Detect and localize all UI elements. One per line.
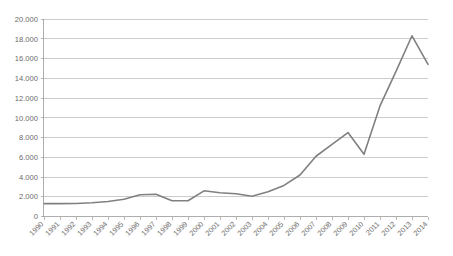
- y-axis-tick-label: 16.000: [15, 54, 38, 63]
- y-axis-tick-label: 4.000: [19, 173, 38, 182]
- y-axis-tick-label: 10.000: [15, 114, 38, 123]
- line-chart-figure: 02.0004.0006.0008.00010.00012.00014.0001…: [0, 0, 453, 256]
- y-axis-tick-label: 12.000: [15, 94, 38, 103]
- y-axis-tick-label: 6.000: [19, 153, 38, 162]
- chart-background: [0, 0, 453, 256]
- y-axis-tick-label: 8.000: [19, 133, 38, 142]
- chart-canvas: 02.0004.0006.0008.00010.00012.00014.0001…: [0, 0, 453, 256]
- y-axis-tick-label: 20.000: [15, 15, 38, 24]
- y-axis-tick-label: 2.000: [19, 192, 38, 201]
- y-axis-tick-label: 18.000: [15, 35, 38, 44]
- y-axis-tick-label: 14.000: [15, 74, 38, 83]
